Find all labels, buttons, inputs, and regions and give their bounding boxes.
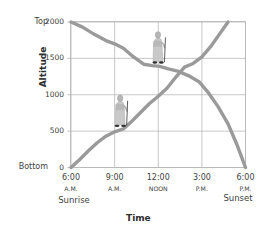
x-tick-period-4: P.M. [226,186,266,192]
sunrise-label: Sunrise [44,196,104,205]
x-tick-time-1: 9:00 [95,174,135,182]
x-tick-period-3: P.M. [182,186,222,192]
x-tick-time-4: 6:00 [226,174,266,182]
x-tick-time-0: 6:00 [51,174,91,182]
x-tick-time-2: 12:00 [138,174,178,182]
x-tick-period-0: A.M. [51,186,91,192]
y-axis-title: Altitude [38,32,48,102]
monk-with-staff-icon [152,32,165,64]
mountain-journey-chart-figure: Top Bottom 0500100015002000 6:00A.M.9:00… [0,0,276,233]
y-tick-label-2000: 2000 [34,18,64,26]
y-tick-label-500: 500 [34,127,64,135]
x-axis-title: Time [126,214,151,223]
y-tick-label-0: 0 [34,164,64,172]
x-tick-period-2: NOON [138,186,178,192]
x-tick-time-3: 3:00 [182,174,222,182]
x-tick-period-1: A.M. [95,186,135,192]
monk-with-staff-icon [115,95,128,127]
sunset-label: Sunset [208,194,268,203]
